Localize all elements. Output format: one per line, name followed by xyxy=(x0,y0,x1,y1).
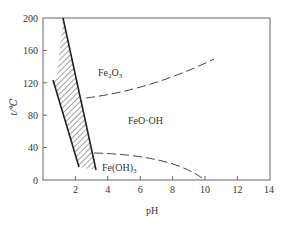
x-tick-label: 6 xyxy=(138,184,143,195)
y-tick-label: 200 xyxy=(23,13,38,24)
region-label-fe2o3: Fe2O3 xyxy=(98,67,123,80)
x-tick-label: 10 xyxy=(200,184,210,195)
y-axis-ticks xyxy=(43,50,47,147)
y-tick-label: 120 xyxy=(23,78,38,89)
phase-diagram-chart: 2 4 6 8 10 12 14 0 40 80 120 160 200 pH … xyxy=(0,0,282,234)
x-tick-label: 14 xyxy=(264,184,274,195)
y-tick-label: 80 xyxy=(28,110,38,121)
y-axis-label: t/℃ xyxy=(8,99,19,116)
x-tick-label: 2 xyxy=(73,184,78,195)
x-axis-label: pH xyxy=(146,205,158,216)
region-label-feooh: FeO·OH xyxy=(128,115,163,126)
x-axis-ticks xyxy=(75,176,237,180)
hatched-region xyxy=(53,18,96,170)
y-tick-label: 160 xyxy=(23,45,38,56)
x-tick-label: 12 xyxy=(232,184,242,195)
y-tick-label: 40 xyxy=(28,142,38,153)
boundary-fe2o3-feooh-dashed xyxy=(86,59,214,98)
x-tick-label: 4 xyxy=(105,184,110,195)
x-tick-label: 8 xyxy=(170,184,175,195)
y-tick-label: 0 xyxy=(33,175,38,186)
chart-svg: 2 4 6 8 10 12 14 0 40 80 120 160 200 pH … xyxy=(0,0,282,234)
region-label-feoh3: Fe(OH)3 xyxy=(102,162,137,175)
